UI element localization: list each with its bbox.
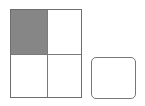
cell-bottom-right — [48, 55, 82, 97]
answer-box[interactable] — [91, 57, 136, 99]
cell-bottom-left — [11, 55, 47, 97]
horizontal-divider — [11, 54, 81, 55]
cell-top-right — [48, 10, 82, 54]
fraction-grid — [10, 9, 82, 98]
shaded-cell-top-left — [11, 10, 47, 54]
